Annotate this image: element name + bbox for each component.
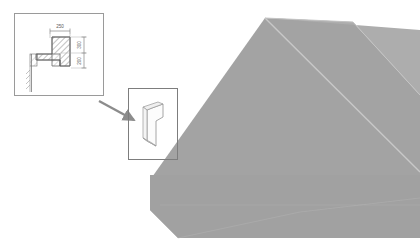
enlarged-notch-contents [0, 0, 420, 251]
notch-front-face [147, 104, 163, 146]
drawing-canvas: 250 300 200 [0, 0, 420, 251]
notch-side-face [143, 107, 147, 141]
